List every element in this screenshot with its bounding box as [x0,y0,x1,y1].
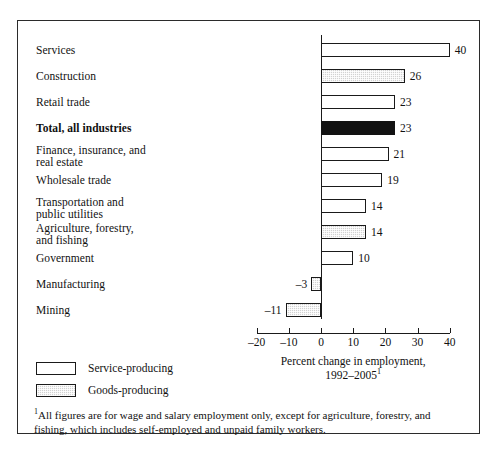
bar-goods [321,225,366,239]
x-axis-caption: Percent change in employment, 1992–20051 [257,355,450,382]
x-axis-caption-line2: 1992–20051 [257,369,450,383]
chart-row: Retail trade23 [18,95,481,121]
chart-row: Mining–11 [18,303,481,329]
bar-value-label: 23 [400,121,412,135]
bar-service [321,199,366,213]
chart-row: Services40 [18,43,481,69]
plot-area: Services40Construction26Retail trade23To… [18,21,481,346]
bar-category-label: Wholesale trade [36,174,261,187]
bar-category-label: Total, all industries [36,122,261,135]
bar-value-label: 23 [400,95,412,109]
bar-service [321,43,450,57]
legend-label-goods: Goods-producing [88,384,169,396]
bar-total [321,121,395,135]
bar-service [321,251,353,265]
bar-category-label-line1: Agriculture, forestry, [36,222,261,234]
bar-category-label: Finance, insurance, andreal estate [36,144,261,168]
bar-value-label: 26 [410,69,422,83]
footnote: 1All figures are for wage and salary emp… [34,409,466,436]
bar-value-label: 14 [371,225,383,239]
bar-service [321,147,389,161]
chart-row: Government10 [18,251,481,277]
bar-value-label: 21 [394,147,406,161]
bar-value-label: 19 [387,173,399,187]
bar-category-label-line2: public utilities [36,208,261,220]
chart-row: Finance, insurance, andreal estate21 [18,147,481,173]
x-axis-tick [418,328,419,333]
legend-item-goods-producing: Goods-producing [36,379,246,401]
x-axis-tick [289,328,290,333]
bar-service [321,95,395,109]
bar-category-label: Government [36,252,261,265]
legend-swatch-goods-icon [36,384,76,397]
bar-category-label: Services [36,44,261,57]
bar-value-label: –11 [260,303,282,317]
bar-category-label: Manufacturing [36,278,261,291]
x-axis: –20–10010203040 [18,333,481,345]
chart-row: Construction26 [18,69,481,95]
chart-row: Manufacturing–3 [18,277,481,303]
bar-value-label: 40 [455,43,467,57]
bar-value-label: –3 [285,277,307,291]
bar-category-label: Agriculture, forestry,and fishing [36,222,261,246]
x-axis-line [257,333,450,334]
bar-service [321,173,382,187]
x-axis-tick-label: 40 [430,336,470,348]
x-axis-tick [257,328,258,333]
legend-item-service-producing: Service-producing [36,357,246,379]
bar-goods [311,277,321,291]
bar-category-label: Construction [36,70,261,83]
bar-category-label: Transportation andpublic utilities [36,196,261,220]
figure-frame: Services40Construction26Retail trade23To… [17,20,480,434]
x-axis-caption-years: 1992–2005 [325,369,377,381]
footnote-text: All figures are for wage and salary empl… [34,409,431,435]
x-axis-tick [385,328,386,333]
bar-category-label-line1: Finance, insurance, and [36,144,261,156]
x-axis-caption-line1: Percent change in employment, [257,355,450,369]
x-axis-tick [321,328,322,333]
x-axis-tick [353,328,354,333]
x-axis-caption-footnote-marker: 1 [377,367,381,376]
x-axis-tick [450,328,451,333]
bar-category-label-line2: real estate [36,156,261,168]
bar-goods [321,69,405,83]
legend-label-service: Service-producing [88,362,173,374]
bar-value-label: 14 [371,199,383,213]
bar-category-label: Retail trade [36,96,261,109]
legend: Service-producing Goods-producing [36,357,246,401]
bar-goods [286,303,321,317]
bar-category-label: Mining [36,304,261,317]
chart-row: Agriculture, forestry,and fishing14 [18,225,481,251]
bar-value-label: 10 [358,251,370,265]
bar-category-label-line2: and fishing [36,234,261,246]
bar-category-label-line1: Transportation and [36,196,261,208]
legend-swatch-service-icon [36,362,76,375]
